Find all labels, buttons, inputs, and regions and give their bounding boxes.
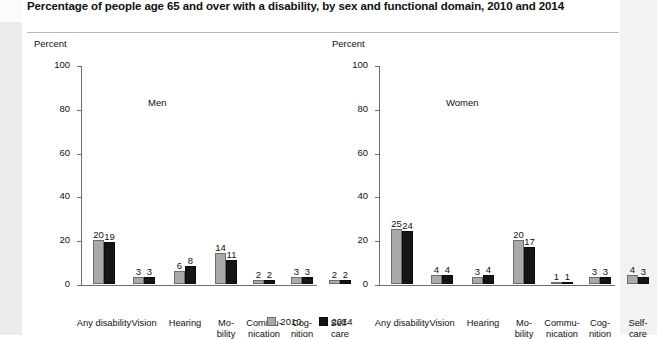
bar-value-label: 8 bbox=[184, 255, 198, 266]
plot-area-men: 0204060801002019Any disability33Vision68… bbox=[81, 66, 316, 285]
y-axis-tick: 0 bbox=[77, 285, 81, 286]
y-axis-tick-label: 0 bbox=[65, 278, 70, 289]
bar-2014-vision bbox=[144, 277, 155, 284]
bar-2010-vision bbox=[431, 275, 442, 284]
bar-2014-communication bbox=[562, 282, 573, 284]
bar-2014-anydisability bbox=[104, 242, 115, 284]
bar-2010-communication bbox=[253, 280, 264, 284]
y-axis-tick-label: 60 bbox=[59, 147, 70, 158]
y-axis-tick: 0 bbox=[375, 285, 379, 286]
legend-label-2010: 2010 bbox=[280, 316, 301, 327]
y-axis-tick: 40 bbox=[77, 197, 81, 198]
legend-label-2014: 2014 bbox=[332, 316, 353, 327]
bar-value-label: 4 bbox=[441, 264, 455, 275]
bar-value-label: 4 bbox=[482, 264, 496, 275]
bar-2014-hearing bbox=[483, 275, 494, 284]
bar-2010-anydisability bbox=[93, 240, 104, 284]
bar-2014-hearing bbox=[185, 266, 196, 284]
bar-2010-anydisability bbox=[391, 229, 402, 284]
y-axis-line bbox=[379, 66, 380, 286]
legend-swatch-2010 bbox=[267, 317, 276, 326]
bar-2014-cognition bbox=[302, 277, 313, 284]
y-axis-tick-label: 20 bbox=[59, 234, 70, 245]
bar-2010-communication bbox=[551, 282, 562, 284]
bar-value-label: 24 bbox=[401, 220, 415, 231]
y-axis-tick-label: 100 bbox=[54, 59, 70, 70]
bar-2010-mobility bbox=[513, 240, 524, 284]
y-axis-tick: 60 bbox=[375, 154, 379, 155]
y-axis-tick: 80 bbox=[77, 110, 81, 111]
bar-2014-cognition bbox=[600, 277, 611, 284]
figure-title: Percentage of people age 65 and over wit… bbox=[27, 0, 615, 14]
y-axis-tick: 20 bbox=[375, 241, 379, 242]
y-axis-tick-label: 100 bbox=[352, 59, 368, 70]
y-axis-tick-label: 80 bbox=[59, 103, 70, 114]
y-axis-tick-label: 40 bbox=[357, 190, 368, 201]
bar-value-label: 3 bbox=[143, 266, 157, 277]
y-axis-title: Percent bbox=[34, 38, 67, 49]
legend-item-2014: 2014 bbox=[319, 316, 353, 327]
y-axis-tick: 100 bbox=[77, 66, 81, 67]
y-axis-tick-label: 60 bbox=[357, 147, 368, 158]
plot-area-women: 0204060801002524Any disability44Vision34… bbox=[379, 66, 614, 285]
bar-2014-mobility bbox=[226, 260, 237, 284]
y-axis-tick-label: 0 bbox=[363, 278, 368, 289]
y-axis-tick: 20 bbox=[77, 241, 81, 242]
y-axis-tick-label: 80 bbox=[357, 103, 368, 114]
bar-2010-hearing bbox=[472, 277, 483, 284]
y-axis-title: Percent bbox=[332, 38, 365, 49]
chart-panel-women: Percent Women 0204060801002524Any disabi… bbox=[326, 36, 626, 321]
bar-2014-mobility bbox=[524, 247, 535, 284]
bar-2010-vision bbox=[133, 277, 144, 284]
bar-2014-selfcare bbox=[638, 277, 649, 284]
bar-2014-anydisability bbox=[402, 231, 413, 284]
y-axis-tick-label: 40 bbox=[59, 190, 70, 201]
bar-value-label: 11 bbox=[225, 249, 239, 260]
bar-2010-hearing bbox=[174, 271, 185, 284]
y-axis-tick: 60 bbox=[77, 154, 81, 155]
legend-item-2010: 2010 bbox=[267, 316, 301, 327]
bar-value-label: 1 bbox=[561, 271, 575, 282]
x-axis-line bbox=[379, 285, 615, 286]
page-corner bbox=[0, 0, 22, 22]
y-axis-tick: 40 bbox=[375, 197, 379, 198]
bar-2010-cognition bbox=[291, 277, 302, 284]
legend-swatch-2014 bbox=[319, 317, 328, 326]
bar-2014-vision bbox=[442, 275, 453, 284]
title-divider bbox=[27, 32, 619, 33]
bar-2010-cognition bbox=[589, 277, 600, 284]
bar-value-label: 2 bbox=[263, 269, 277, 280]
x-axis-line bbox=[81, 285, 317, 286]
bar-value-label: 3 bbox=[637, 266, 651, 277]
y-axis-line bbox=[81, 66, 82, 286]
y-axis-tick: 80 bbox=[375, 110, 379, 111]
bar-value-label: 19 bbox=[103, 231, 117, 242]
bar-value-label: 3 bbox=[599, 266, 613, 277]
chart-legend: 2010 2014 bbox=[0, 316, 620, 327]
chart-panel-men: Percent Men 0204060801002019Any disabili… bbox=[28, 36, 328, 321]
y-axis-tick: 100 bbox=[375, 66, 379, 67]
bar-2014-communication bbox=[264, 280, 275, 284]
page-left-margin bbox=[0, 0, 22, 335]
bar-value-label: 3 bbox=[301, 266, 315, 277]
bar-value-label: 17 bbox=[523, 236, 537, 247]
y-axis-tick-label: 20 bbox=[357, 234, 368, 245]
